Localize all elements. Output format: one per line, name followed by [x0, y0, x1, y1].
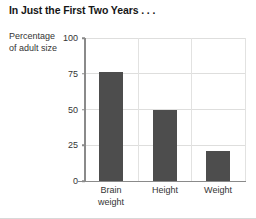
x-label-line: Weight	[191, 185, 245, 197]
plot-area	[84, 38, 245, 181]
chart-title: In Just the First Two Years . . .	[9, 4, 155, 16]
y-tick-label: 25	[56, 140, 82, 150]
bar-brain-weight	[99, 72, 123, 181]
gridline-vertical	[245, 38, 246, 181]
y-tick-mark	[82, 37, 85, 39]
x-label-height: Height	[138, 185, 192, 197]
x-label-weight: Weight	[191, 185, 245, 197]
x-label-line: weight	[84, 197, 138, 209]
x-label-line: Brain	[84, 185, 138, 197]
y-tick-mark	[82, 145, 85, 147]
y-tick-label: 100	[56, 33, 82, 43]
x-label-brain-weight: Brainweight	[84, 185, 138, 208]
x-axis-category-labels: BrainweightHeightWeight	[84, 185, 245, 215]
gridline-vertical	[191, 38, 192, 181]
y-tick-mark	[82, 180, 85, 182]
bottom-divider	[0, 218, 256, 219]
bar-weight	[206, 151, 230, 181]
gridline-vertical	[138, 38, 139, 181]
bar-height	[153, 110, 177, 182]
y-axis-tick-labels: 0255075100	[56, 38, 82, 181]
y-tick-label: 50	[56, 105, 82, 115]
bar-chart-figure: In Just the First Two Years . . . Percen…	[0, 0, 256, 219]
y-tick-mark	[82, 73, 85, 75]
y-tick-label: 75	[56, 69, 82, 79]
x-label-line: Height	[138, 185, 192, 197]
x-axis-line	[78, 181, 246, 183]
y-tick-mark	[82, 109, 85, 111]
gridline-horizontal	[84, 38, 245, 39]
